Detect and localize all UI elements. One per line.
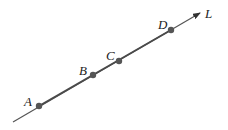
point-c <box>116 58 122 64</box>
label-d: D <box>157 17 168 32</box>
label-c: C <box>106 48 115 63</box>
label-b: B <box>79 63 87 78</box>
point-b <box>90 72 96 78</box>
segment-ad <box>39 30 171 106</box>
label-l: L <box>204 6 212 21</box>
point-d <box>168 27 174 33</box>
line-diagram: A B C D L <box>0 0 228 130</box>
label-a: A <box>23 94 32 109</box>
point-a <box>36 103 42 109</box>
